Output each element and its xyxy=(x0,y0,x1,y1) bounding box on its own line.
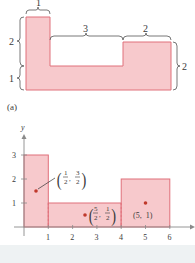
svg-text:1: 1 xyxy=(106,205,110,213)
x-tick-3: 3 xyxy=(95,233,99,242)
brace-right-top-2 xyxy=(123,33,171,40)
y-tick-3: 3 xyxy=(12,151,16,160)
svg-text:): ) xyxy=(111,205,116,226)
l-shaped-region xyxy=(26,17,171,90)
dim-label-middle-width: 3 xyxy=(83,23,88,34)
svg-text:5: 5 xyxy=(94,205,98,213)
svg-text:(: ( xyxy=(57,169,62,190)
y-tick-1: 1 xyxy=(12,199,16,208)
point-label-1: ( 1 2 , 3 2 ) xyxy=(57,169,87,190)
y-axis-arrow-icon xyxy=(22,134,27,139)
x-tick-6: 6 xyxy=(168,233,172,242)
svg-text:,: , xyxy=(69,175,71,183)
figure-b: y 1 2 3 4 5 6 1 2 3 ( xyxy=(12,123,195,242)
caption-a: (a) xyxy=(7,102,17,112)
diagram-canvas: 1 2 1 3 2 2 (a) y xyxy=(0,0,195,263)
point-label-3: (5, 1) xyxy=(133,211,153,220)
svg-text:2: 2 xyxy=(94,214,98,222)
dim-label-right-width: 2 xyxy=(143,23,148,34)
y-axis-label: y xyxy=(20,123,25,132)
svg-text:2: 2 xyxy=(106,214,110,222)
svg-text:3: 3 xyxy=(76,169,80,177)
brace-left-lower xyxy=(17,66,24,90)
dim-label-left-upper: 2 xyxy=(9,36,14,47)
dim-label-right-height: 2 xyxy=(182,61,187,72)
figure-a: 1 2 1 3 2 2 (a) xyxy=(7,0,187,112)
x-tick-1: 1 xyxy=(46,233,50,242)
x-axis-arrow-icon xyxy=(190,225,195,230)
centroid-point-1 xyxy=(34,189,38,193)
svg-text:2: 2 xyxy=(64,178,68,186)
centroid-point-3 xyxy=(144,201,148,205)
brace-left-upper xyxy=(17,17,24,66)
svg-text:): ) xyxy=(82,169,87,190)
brace-middle-3 xyxy=(50,33,123,40)
svg-text:2: 2 xyxy=(76,178,80,186)
page-bottom-margin xyxy=(0,245,195,263)
dim-label-top-width: 1 xyxy=(36,0,41,8)
dim-label-left-lower: 1 xyxy=(9,73,14,84)
centroid-point-2 xyxy=(83,213,87,217)
y-tick-2: 2 xyxy=(12,175,16,184)
x-tick-5: 5 xyxy=(143,233,147,242)
brace-top-1 xyxy=(26,7,50,14)
svg-text:1: 1 xyxy=(64,169,68,177)
svg-text:(: ( xyxy=(89,205,94,226)
x-tick-2: 2 xyxy=(70,233,74,242)
brace-right-side-2 xyxy=(173,42,180,90)
x-tick-4: 4 xyxy=(119,233,123,242)
svg-text:,: , xyxy=(99,211,101,219)
